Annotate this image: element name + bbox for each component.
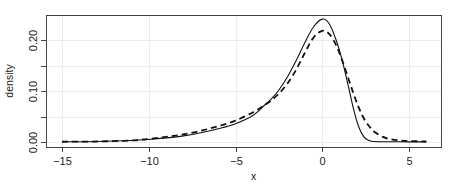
x-axis-label: x: [251, 170, 257, 182]
x-tick-label: 0: [319, 155, 325, 167]
x-tick-label: 5: [406, 155, 412, 167]
dashed-density-curve: [62, 31, 426, 142]
plot-frame: [47, 16, 442, 148]
y-axis-label: density: [3, 64, 15, 98]
x-axis: −15−10−505: [53, 147, 412, 167]
density-chart: −15−10−505 0.000.100.20 x density: [0, 0, 453, 185]
y-tick-label: 0.20: [27, 30, 39, 51]
data-series: [62, 19, 426, 142]
y-axis: 0.000.100.20: [27, 30, 46, 153]
x-tick-label: −5: [230, 155, 243, 167]
y-tick-label: 0.10: [27, 81, 39, 102]
y-tick-label: 0.00: [27, 132, 39, 153]
x-tick-label: −10: [140, 155, 159, 167]
x-tick-label: −15: [53, 155, 72, 167]
solid-density-curve: [62, 19, 426, 142]
grid-lines: [46, 15, 441, 147]
